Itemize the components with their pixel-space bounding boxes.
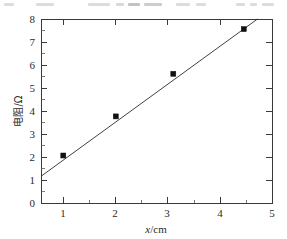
x-tick-label: 4 <box>217 207 223 219</box>
y-tick-label: 1 <box>30 174 36 186</box>
x-axis-major-ticks <box>63 197 272 203</box>
fit-line-group <box>41 19 258 176</box>
y-tick-label: 8 <box>30 13 36 25</box>
y-axis-right-ticks <box>266 42 272 180</box>
y-tick-label: 0 <box>30 197 36 209</box>
y-axis-title: 电阻/Ω <box>12 95 24 126</box>
plot-frame <box>41 19 272 203</box>
data-point-marker <box>113 114 118 119</box>
x-axis-title-unit: /cm <box>150 223 167 235</box>
chart-svg: 1 2 3 4 5 0 1 2 3 4 5 6 7 8 <box>0 0 287 239</box>
y-axis-tick-labels: 0 1 2 3 4 5 6 7 8 <box>30 13 36 209</box>
y-tick-label: 3 <box>30 128 36 140</box>
y-tick-label: 2 <box>30 151 36 163</box>
data-point-marker <box>61 153 66 158</box>
x-tick-label: 2 <box>112 207 118 219</box>
svg-text:电阻/Ω: 电阻/Ω <box>12 95 24 126</box>
x-axis-top-ticks <box>63 19 220 25</box>
x-tick-label: 5 <box>269 207 275 219</box>
y-tick-label: 4 <box>30 105 36 117</box>
svg-text:x/cm: x/cm <box>144 223 167 235</box>
x-tick-label: 3 <box>164 207 170 219</box>
y-axis-title-quantity: 电阻 <box>12 107 24 127</box>
x-tick-label: 1 <box>60 207 66 219</box>
figure-container: 1 2 3 4 5 0 1 2 3 4 5 6 7 8 <box>0 0 287 239</box>
x-axis-tick-labels: 1 2 3 4 5 <box>60 207 275 219</box>
data-point-marker <box>241 27 246 32</box>
y-tick-label: 6 <box>30 59 36 71</box>
linear-fit-line <box>41 19 258 176</box>
y-tick-label: 5 <box>30 82 36 94</box>
data-point-marker <box>171 71 176 76</box>
y-tick-label: 7 <box>30 36 36 48</box>
x-axis-title: x/cm <box>144 223 167 235</box>
data-points-group <box>61 27 247 158</box>
plot-frame-rect <box>41 19 272 203</box>
y-axis-title-unit: /Ω <box>13 95 24 106</box>
